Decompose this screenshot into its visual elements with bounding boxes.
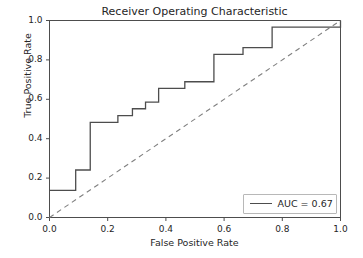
x-tick-label: 0.4 bbox=[146, 224, 186, 234]
y-tick-label: 0.6 bbox=[9, 93, 43, 103]
legend-label-auc: AUC = 0.67 bbox=[278, 198, 333, 209]
legend-line-swatch-auc bbox=[250, 203, 272, 204]
y-tick-label: 0.2 bbox=[9, 172, 43, 182]
x-tick-label: 0.2 bbox=[88, 224, 128, 234]
y-tick-label: 0.4 bbox=[9, 133, 43, 143]
y-tick-label: 0.0 bbox=[9, 212, 43, 222]
roc-chart-figure: Receiver Operating Characteristic True P… bbox=[0, 0, 363, 258]
x-tick-label: 1.0 bbox=[321, 224, 361, 234]
x-tick-label: 0.0 bbox=[30, 224, 70, 234]
y-tick-label: 0.8 bbox=[9, 54, 43, 64]
roc-curve-line bbox=[50, 21, 341, 191]
y-tick-label: 1.0 bbox=[9, 15, 43, 25]
data-series-group bbox=[50, 21, 341, 218]
chance-diagonal-line bbox=[50, 21, 341, 218]
plot-area bbox=[0, 0, 363, 258]
x-tick-label: 0.8 bbox=[262, 224, 302, 234]
legend[interactable]: AUC = 0.67 bbox=[243, 194, 337, 214]
x-tick-label: 0.6 bbox=[204, 224, 244, 234]
